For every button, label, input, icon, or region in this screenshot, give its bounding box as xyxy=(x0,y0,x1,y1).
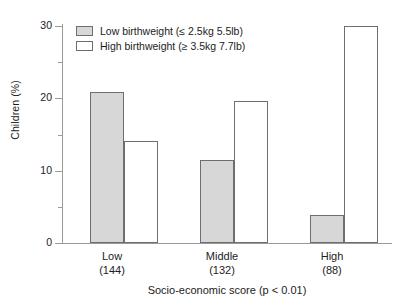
x-axis-line xyxy=(62,243,392,244)
bar-high-highbirthweight[interactable] xyxy=(344,26,378,243)
bar-middle-lowbirthweight[interactable] xyxy=(200,160,234,243)
legend-swatch-gray-icon xyxy=(76,26,93,36)
y-tick-label-10: 10 xyxy=(12,165,52,176)
x-group-name-high: High xyxy=(304,250,360,264)
legend-item-high-birthweight[interactable]: High birthweight (≥ 3.5kg 7.7lb) xyxy=(76,38,245,53)
x-group-name-low: Low xyxy=(84,250,140,264)
x-group-count-middle: (132) xyxy=(194,264,250,278)
legend: Low birthweight (≤ 2.5kg 5.5lb) High bir… xyxy=(76,23,245,53)
x-group-count-high: (88) xyxy=(304,264,360,278)
x-group-label-high: High (88) xyxy=(304,250,360,277)
y-tick-label-0: 0 xyxy=(12,237,52,248)
y-tick-label-20: 20 xyxy=(12,92,52,103)
legend-label-high-birthweight: High birthweight (≥ 3.5kg 7.7lb) xyxy=(100,40,245,52)
legend-item-low-birthweight[interactable]: Low birthweight (≤ 2.5kg 5.5lb) xyxy=(76,23,245,38)
x-group-count-low: (144) xyxy=(84,264,140,278)
y-tick-label-30: 30 xyxy=(12,20,52,31)
bar-low-lowbirthweight[interactable] xyxy=(90,92,124,243)
bar-high-lowbirthweight[interactable] xyxy=(310,215,344,243)
bar-low-highbirthweight[interactable] xyxy=(124,141,158,243)
x-group-label-low: Low (144) xyxy=(84,250,140,277)
legend-swatch-white-icon xyxy=(76,41,93,51)
x-axis-title: Socio-economic score (p < 0.01) xyxy=(62,284,392,296)
y-axis-title: Children (%) xyxy=(9,65,21,155)
plot-area xyxy=(62,26,392,243)
bar-middle-highbirthweight[interactable] xyxy=(234,101,268,243)
x-group-name-middle: Middle xyxy=(194,250,250,264)
bar-chart-figure: Children (%) 30 20 10 0 Low (144) Middle… xyxy=(0,0,401,307)
x-group-label-middle: Middle (132) xyxy=(194,250,250,277)
legend-label-low-birthweight: Low birthweight (≤ 2.5kg 5.5lb) xyxy=(100,25,243,37)
y-tick-0 xyxy=(55,243,63,244)
